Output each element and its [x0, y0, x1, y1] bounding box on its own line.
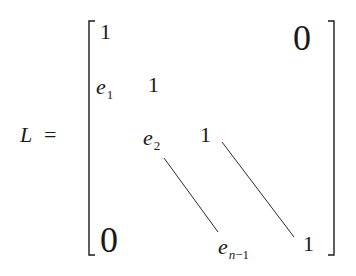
diag-entry-n: 1 [303, 233, 314, 255]
left-bracket [89, 21, 95, 255]
e2-index: 2 [154, 138, 161, 153]
e1-index: 1 [107, 87, 114, 102]
right-bracket [328, 21, 334, 255]
upper-zero-block: 0 [293, 20, 311, 56]
diag-entry-3: 1 [200, 124, 211, 146]
diag-entry-1: 1 [100, 21, 111, 43]
e2-base: e [143, 125, 153, 150]
diag-entry-2: 1 [148, 74, 159, 96]
e1-base: e [96, 74, 106, 99]
en-1-base: e [218, 234, 228, 259]
subdiag-entry-en-1: en−1 [218, 236, 249, 261]
diagonal-ellipsis-line [222, 142, 294, 237]
subdiag-entry-e1: e1 [96, 76, 113, 101]
equals-sign: = [44, 124, 56, 146]
lower-zero-block: 0 [100, 222, 118, 258]
subdiag-entry-e2: e2 [143, 127, 160, 152]
lhs-symbol: L [20, 124, 32, 146]
en-1-index-minus-one: −1 [235, 247, 249, 262]
subdiagonal-ellipsis-line [164, 158, 218, 232]
en-1-index: n−1 [229, 247, 249, 262]
